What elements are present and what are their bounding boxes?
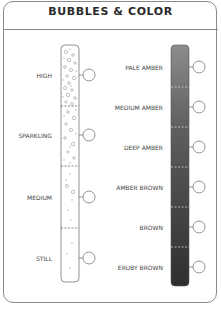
color-label-pale-amber: PALE AMBER — [125, 64, 163, 71]
color-label-medium-amber: MEDIUM AMBER — [115, 104, 163, 111]
bubble-markers — [79, 69, 95, 264]
diagram-graphics — [0, 0, 221, 309]
color-label-amber-brown: AMBER BROWN — [116, 184, 163, 191]
color-label-eruby-brown: ERUBY BROWN — [118, 264, 163, 271]
bubble-label-still: STILL — [36, 255, 52, 262]
color-bar — [171, 45, 189, 286]
color-label-deep-amber: DEEP AMBER — [124, 144, 163, 151]
bubble-label-medium: MEDIUM — [27, 194, 52, 201]
bubble-label-sparkling: SPARKLING — [18, 132, 52, 139]
color-label-brown: BROWN — [140, 224, 163, 231]
bubble-tube — [61, 45, 79, 282]
color-markers — [189, 61, 205, 273]
bubble-label-high: HIGH — [37, 72, 52, 79]
